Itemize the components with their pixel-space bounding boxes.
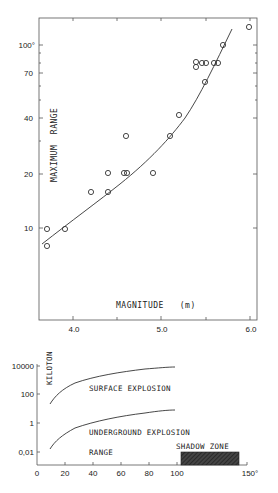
y-tick-label: 1 (30, 419, 35, 428)
y-tick-label: 0,01 (18, 448, 34, 457)
x-tick-label: 100 (170, 469, 184, 478)
data-point (150, 170, 155, 175)
x-tick-label: 0 (35, 469, 40, 478)
shadow-zone-label: SHADOW ZONE (176, 442, 229, 451)
x-tick-label: 60 (117, 469, 126, 478)
x-tick-label: 80 (145, 469, 154, 478)
plot-frame (39, 18, 257, 320)
data-point (105, 170, 110, 175)
data-points (44, 24, 251, 248)
data-point (176, 112, 181, 117)
y-axis-ticks (39, 45, 257, 228)
kiloton-range-chart: 10000 100 1 0,01 0 20 40 60 80 100 150° … (12, 351, 259, 478)
data-point (123, 133, 128, 138)
magnitude-range-chart: 100° 70 40 20 10 4.0 5.0 6.0 MAGNITUDE (… (18, 18, 257, 334)
data-point (62, 226, 67, 231)
data-point (246, 24, 251, 29)
y-tick-label: 70 (24, 69, 33, 78)
x-tick-label: 40 (89, 469, 98, 478)
data-point (193, 59, 198, 64)
y-axis-ticks (37, 366, 40, 452)
x-tick-label: 150° (242, 469, 259, 478)
x-tick-label: 6.0 (245, 325, 257, 334)
data-point (44, 226, 49, 231)
x-tick-label: 5.0 (156, 325, 168, 334)
y-axis-title: MAXIMUM RANGE (50, 108, 59, 182)
data-point (193, 64, 198, 69)
y-tick-label: 10000 (12, 362, 35, 371)
y-tick-label: 100 (21, 390, 35, 399)
top-ticks (73, 18, 250, 21)
data-point (44, 243, 49, 248)
x-tick-label: 20 (61, 469, 70, 478)
y-tick-label: 20 (24, 170, 33, 179)
shadow-zone-box (181, 452, 239, 465)
y-axis-title: KILOTON (45, 351, 54, 385)
y-tick-label: 10 (24, 224, 33, 233)
y-tick-label: 40 (24, 114, 33, 123)
figure: 100° 70 40 20 10 4.0 5.0 6.0 MAGNITUDE (… (0, 0, 278, 493)
x-axis-title: MAGNITUDE (m) (116, 301, 196, 310)
y-tick-label: 100° (18, 41, 35, 50)
surface-explosion-label: SURFACE EXPLOSION (89, 384, 171, 393)
data-point (88, 189, 93, 194)
x-axis-ticks (73, 316, 250, 320)
x-tick-label: 4.0 (68, 325, 80, 334)
range-label: RANGE (89, 448, 113, 457)
underground-explosion-label: UNDERGROUND EXPLOSION (89, 428, 190, 437)
